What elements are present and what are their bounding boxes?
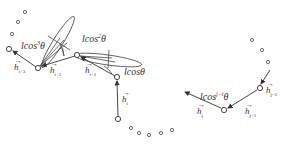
node-start — [115, 116, 120, 121]
label-h-i: →hi — [122, 95, 128, 106]
sequence-dot — [129, 126, 132, 129]
label-h-j2: →hj−2 — [266, 86, 277, 97]
sequence-dot — [250, 38, 253, 41]
label-h-j: →hj — [197, 107, 203, 118]
arrow-h-i — [117, 81, 118, 116]
node-h-i2 — [35, 65, 40, 70]
label-h-i2: →hi+2 — [50, 66, 61, 77]
sequence-dot — [16, 20, 19, 23]
label-h-i1: →hi+1 — [85, 66, 96, 77]
label-lcos3: lcos3θ — [21, 40, 45, 51]
node-h-i — [114, 74, 119, 79]
node-h-i1 — [74, 52, 79, 57]
sequence-dot — [23, 10, 26, 13]
node-h-i3 — [6, 46, 11, 51]
node-h-j — [221, 107, 226, 112]
label-h-i3: →hi+3 — [14, 63, 25, 74]
label-lcos1: lcosθ — [124, 67, 145, 77]
node-h-j1 — [257, 85, 262, 90]
label-lcos2: lcos2θ — [82, 33, 106, 44]
sequence-dot — [266, 60, 269, 63]
sequence-dot — [137, 131, 140, 134]
sequence-dot — [170, 128, 173, 131]
sequence-dot — [147, 133, 150, 136]
sequence-dot — [10, 32, 13, 35]
sequence-dot — [159, 131, 162, 134]
arrow-h-i2 — [42, 56, 75, 66]
sequence-dot — [260, 48, 263, 51]
label-h-j1: →hj−1 — [245, 107, 256, 118]
